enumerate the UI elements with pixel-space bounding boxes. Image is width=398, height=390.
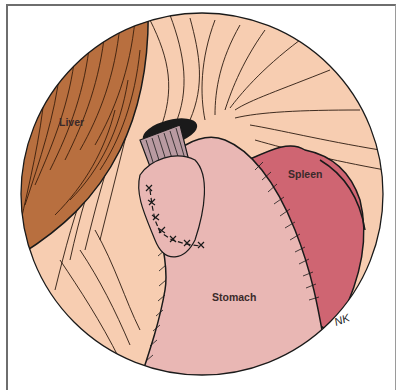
label-spleen: Spleen bbox=[288, 168, 322, 180]
label-stomach: Stomach bbox=[212, 291, 256, 303]
label-liver: Liver bbox=[59, 116, 84, 128]
